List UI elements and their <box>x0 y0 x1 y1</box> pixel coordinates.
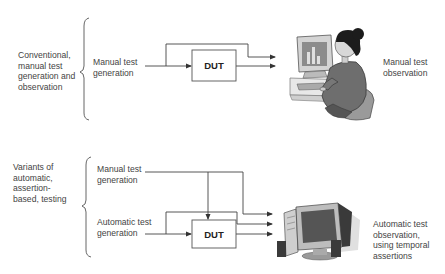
person-at-computer-icon <box>290 28 374 120</box>
top-dut-label: DUT <box>204 60 224 71</box>
top-curly-brace <box>80 18 89 120</box>
bottom-curly-brace <box>82 157 91 257</box>
bottom-dut-box: DUT <box>192 220 236 248</box>
desktop-computer-icon <box>277 203 360 260</box>
bottom-dut-label: DUT <box>204 229 224 240</box>
diagram-canvas: DUT <box>0 0 445 274</box>
top-dut-box: DUT <box>192 50 236 81</box>
